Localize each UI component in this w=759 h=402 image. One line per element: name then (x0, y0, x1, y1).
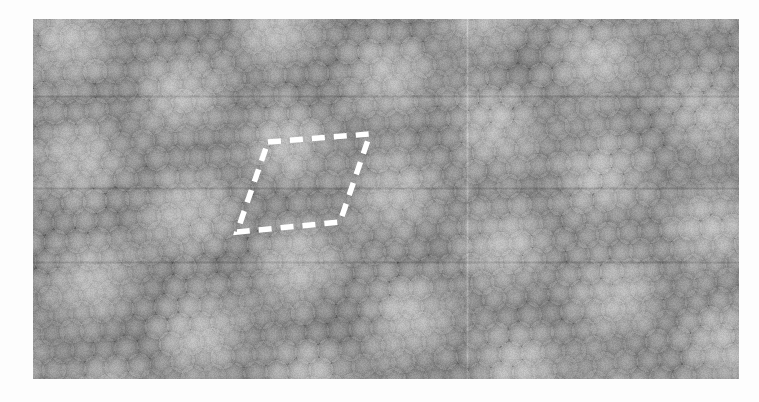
figure-page (0, 0, 759, 402)
micrograph-frame (33, 19, 739, 379)
micrograph-image (33, 19, 739, 379)
